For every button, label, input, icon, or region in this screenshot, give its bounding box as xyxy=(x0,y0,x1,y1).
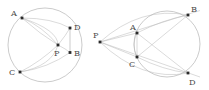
left-point-D xyxy=(69,27,72,30)
right-label-B: B xyxy=(191,4,197,14)
left-arc-A-to-P-lower xyxy=(22,18,58,45)
left-arc-P-to-D xyxy=(58,28,70,45)
left-arc-P-to-B xyxy=(58,45,70,53)
right-label-P: P xyxy=(93,30,99,40)
left-label-C: C xyxy=(9,67,15,77)
right-arc-A-to-C-bulge xyxy=(134,33,137,57)
right-segment-PC xyxy=(100,42,137,57)
figure-left-point-inside-circle: A D P B C xyxy=(8,8,82,82)
left-point-B xyxy=(69,51,72,54)
left-point-P xyxy=(57,44,60,47)
left-point-A xyxy=(21,17,24,20)
left-arc-A-to-D xyxy=(22,18,70,28)
right-point-P xyxy=(99,41,102,44)
left-label-B: B xyxy=(74,48,80,58)
right-arc-A-to-B xyxy=(137,15,188,33)
right-chord-AD xyxy=(137,33,188,73)
left-point-C xyxy=(19,71,22,74)
right-chord-CB xyxy=(137,15,188,57)
figure-right-point-outside-circle: P A B C D xyxy=(93,4,200,87)
left-label-P: P xyxy=(54,48,60,58)
right-point-A xyxy=(136,32,139,35)
left-label-A: A xyxy=(10,8,17,18)
right-label-C: C xyxy=(129,59,135,69)
left-ellipse-A-P-C xyxy=(20,18,58,72)
right-point-B xyxy=(187,14,190,17)
left-arc-C-to-B xyxy=(20,53,70,73)
left-arc-A-to-P-upper xyxy=(22,18,58,45)
right-label-A: A xyxy=(129,22,136,32)
right-point-C xyxy=(136,56,139,59)
left-label-D: D xyxy=(74,22,81,32)
right-point-D xyxy=(187,72,190,75)
right-label-D: D xyxy=(189,77,196,87)
geometry-figure-canvas: A D P B C P A B C D xyxy=(0,0,209,90)
